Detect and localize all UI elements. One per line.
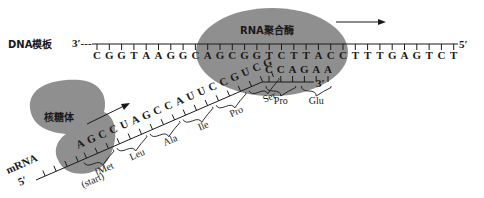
amino-acid-label: Glu [309, 95, 324, 106]
dna-base: A [155, 49, 163, 61]
dna-base: C [228, 49, 236, 61]
dna-base: T [364, 49, 372, 61]
dna-base: T [302, 49, 310, 61]
mrna-base: A [173, 93, 185, 107]
mrna-base: C [151, 103, 163, 117]
dna-base: T [130, 49, 138, 61]
mrna-tick [54, 166, 56, 172]
mrna-base: G [300, 63, 309, 75]
ribosome-label: 核糖体 [44, 111, 75, 123]
dna-base: C [93, 49, 101, 61]
dna-base: C [437, 49, 445, 61]
mrna-tick [150, 124, 152, 130]
dna-3prime-label: 3′--- [72, 37, 92, 49]
mrna-tick [161, 119, 163, 125]
mrna-base: C [277, 63, 285, 75]
dna-base: A [204, 49, 212, 61]
mrna-base: U [184, 89, 196, 103]
dna-base: T [352, 49, 360, 61]
diagram-canvas: DNA模板 RNA聚合酶 核糖体 3′--- 5′ CGGTAAGGCAGCGG… [0, 0, 484, 198]
mrna-tick [139, 129, 141, 135]
amino-acid-label: Ile [196, 118, 211, 133]
mrna-3prime-label: 3′ [316, 77, 325, 89]
dna-base: G [216, 49, 225, 61]
mrna-tick [183, 110, 185, 116]
polymerase-direction-arrow [336, 19, 386, 25]
dna-base: A [314, 49, 322, 61]
mrna-tick [43, 171, 45, 177]
dna-base: T [450, 49, 458, 61]
dna-base: G [413, 49, 422, 61]
dna-base: T [290, 49, 298, 61]
mrna-tick [205, 100, 207, 106]
dna-base: T [425, 49, 433, 61]
mrna-5prime-label: 5′ [16, 173, 29, 187]
dna-base: G [179, 49, 188, 61]
mrna-tick [172, 114, 174, 120]
dna-template-label: DNA模板 [8, 38, 53, 50]
dna-base: G [105, 49, 114, 61]
mrna-tick [128, 134, 130, 140]
dna-base: C [327, 49, 335, 61]
mrna-base: A [289, 63, 297, 75]
dna-base: C [339, 49, 347, 61]
dna-base: A [142, 49, 150, 61]
dna-base: G [388, 49, 397, 61]
amino-acid-label: Pro [274, 95, 288, 106]
mrna-tick [194, 105, 196, 111]
mrna-label: mRNA [4, 151, 39, 175]
mrna-tick [216, 95, 218, 101]
mrna-base: U [118, 117, 130, 131]
mrna-base: A [312, 63, 320, 75]
mrna-tick [117, 138, 119, 144]
mrna-base: C [265, 63, 273, 75]
dna-base: G [167, 49, 176, 61]
dna-base: G [117, 49, 126, 61]
dna-base: T [376, 49, 384, 61]
dna-5prime-label: 5′ [459, 38, 468, 50]
dna-base: A [401, 49, 409, 61]
dna-base: G [240, 49, 249, 61]
mrna-base: A [129, 112, 141, 126]
dna-base: C [191, 49, 199, 61]
mrna-base: C [162, 98, 174, 112]
mrna-base: U [195, 84, 207, 98]
mrna-base: A [324, 63, 332, 75]
rna-polymerase-label: RNA聚合酶 [240, 24, 294, 36]
mrna-tick [227, 91, 229, 97]
dna-base: C [278, 49, 286, 61]
mrna-base: G [140, 107, 153, 122]
